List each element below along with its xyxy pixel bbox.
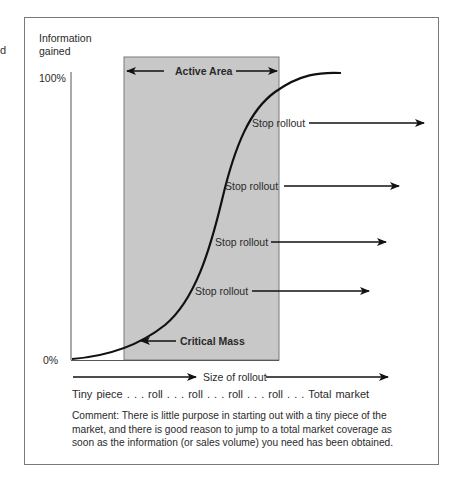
stop-rollout-label-3: Stop rollout (215, 237, 268, 248)
y-axis-tick-0: 0% (43, 355, 58, 366)
stop-rollout-label-4: Stop rollout (195, 286, 248, 297)
x-axis-scale-text: Tiny piece . . . roll . . . roll . . . r… (72, 389, 369, 400)
comment-text: Comment: There is little purpose in star… (72, 409, 412, 450)
y-axis-label-line2: gained (39, 46, 71, 57)
x-axis-label: Size of rollout (203, 372, 267, 383)
y-axis-tick-100: 100% (39, 73, 66, 84)
critical-mass-label: Critical Mass (180, 336, 245, 347)
active-area-label: Active Area (175, 66, 232, 77)
stop-rollout-label-2: Stop rollout (225, 181, 278, 192)
stop-rollout-label-1: Stop rollout (252, 118, 305, 129)
active-area-region (124, 57, 279, 360)
y-axis-label-line1: Information (39, 33, 92, 44)
